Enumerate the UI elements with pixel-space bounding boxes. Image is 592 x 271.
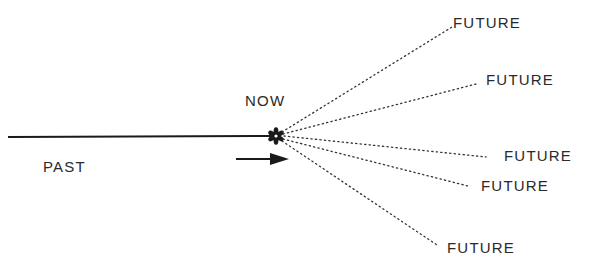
future-label-5: FUTURE <box>447 240 515 255</box>
timeline-diagram <box>0 0 592 271</box>
arrow-right-icon <box>236 153 289 165</box>
future-label-3: FUTURE <box>504 148 572 163</box>
future-path-2 <box>283 84 476 134</box>
future-path-1 <box>282 27 452 132</box>
future-label-2: FUTURE <box>486 72 554 87</box>
future-path-4 <box>283 139 468 186</box>
past-label: PAST <box>43 159 86 174</box>
future-label-4: FUTURE <box>481 178 549 193</box>
past-timeline-line <box>8 136 271 137</box>
future-path-5 <box>282 141 437 245</box>
future-label-1: FUTURE <box>453 15 521 30</box>
now-label: NOW <box>245 93 285 108</box>
